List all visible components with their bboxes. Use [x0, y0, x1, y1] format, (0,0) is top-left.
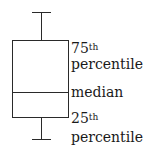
median-label: median [71, 85, 123, 99]
q1-number: 25 [71, 110, 89, 126]
q3-label: 75th [71, 41, 98, 55]
top-whisker [41, 12, 42, 40]
q1-label: 25th [71, 111, 98, 125]
bottom-whisker [41, 117, 42, 139]
q3-percentile-word: percentile [71, 57, 143, 71]
q3-number: 75 [71, 40, 89, 56]
q1-percentile-word: percentile [71, 130, 143, 144]
q1-suffix: th [89, 112, 98, 122]
q3-suffix: th [89, 42, 98, 52]
bottom-whisker-cap [32, 139, 51, 140]
median-line [12, 92, 69, 93]
box [12, 40, 69, 118]
